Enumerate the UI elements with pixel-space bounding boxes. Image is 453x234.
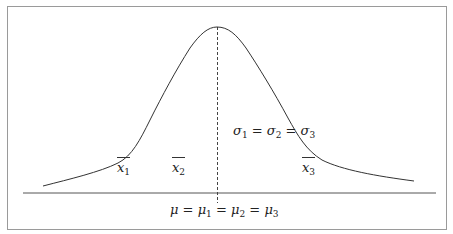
sample-mean-3-label: x3 (302, 161, 315, 177)
mu-sub-3: 3 (273, 209, 279, 219)
mu-symbol: μ (170, 202, 178, 217)
mu-sub-1: 1 (206, 209, 212, 219)
bell-curve-plot (0, 0, 453, 234)
equals-sign: = (249, 202, 260, 217)
distribution-curve (43, 27, 414, 186)
sigma-symbol: σ (233, 123, 242, 138)
mean-equality-label: μ = μ1 = μ2 = μ3 (170, 203, 279, 219)
equals-sign: = (183, 202, 194, 217)
equals-sign: = (286, 123, 297, 138)
overline (302, 157, 315, 158)
overline (117, 157, 130, 158)
sigma-sub-1: 1 (242, 130, 248, 140)
sigma-symbol: σ (267, 123, 276, 138)
x-sub-3: 3 (309, 167, 315, 177)
mu-symbol: μ (198, 202, 206, 217)
equals-sign: = (216, 202, 227, 217)
x-sub-1: 1 (124, 167, 130, 177)
sigma-sub-2: 2 (276, 130, 282, 140)
overline (172, 157, 185, 158)
sample-mean-1-label: x1 (117, 161, 130, 177)
mu-symbol: μ (264, 202, 272, 217)
mu-sub-2: 2 (239, 209, 245, 219)
sigma-equality-label: σ1 = σ2 = σ3 (233, 124, 315, 140)
sample-mean-2-label: x2 (172, 161, 185, 177)
sigma-sub-3: 3 (309, 130, 315, 140)
x-sub-2: 2 (179, 167, 185, 177)
equals-sign: = (252, 123, 263, 138)
